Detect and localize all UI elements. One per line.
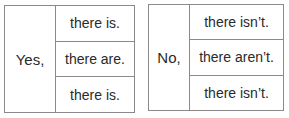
affirmative-rows: there is. there are. there is. <box>56 6 134 112</box>
affirmative-answer-table: Yes, there is. there are. there is. <box>4 5 135 113</box>
table-row: there are. <box>56 42 134 78</box>
table-row: there aren’t. <box>190 40 283 75</box>
negative-answer-table: No, there isn’t. there aren’t. there isn… <box>148 4 284 111</box>
answer-no-label: No, <box>149 5 190 110</box>
table-row: there isn’t. <box>190 76 283 110</box>
answer-yes-label: Yes, <box>5 6 56 112</box>
table-row: there isn’t. <box>190 5 283 40</box>
negative-rows: there isn’t. there aren’t. there isn’t. <box>190 5 283 110</box>
table-row: there is. <box>56 77 134 112</box>
table-row: there is. <box>56 6 134 42</box>
